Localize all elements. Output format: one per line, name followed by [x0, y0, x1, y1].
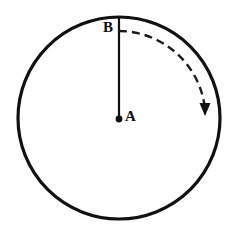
rotation-arc — [119, 31, 205, 109]
center-point-A — [116, 116, 123, 123]
geometry-figure-canvas: B A — [0, 0, 236, 239]
vertex-label-a: A — [125, 109, 136, 124]
figure-svg-root — [0, 0, 236, 239]
arrow-head — [200, 103, 211, 116]
vertex-label-b: B — [103, 20, 113, 35]
